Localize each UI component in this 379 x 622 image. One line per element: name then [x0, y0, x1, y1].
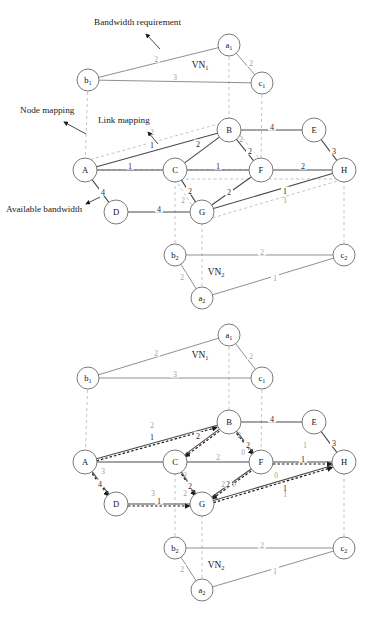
panel-top-vn2-weight-a2-c2: 1 — [273, 274, 277, 283]
panel-top-vn2-title: VN2 — [208, 267, 225, 278]
node-label-F: F — [259, 165, 264, 175]
panel-top-substrate-weight-G-H: 1 — [283, 187, 287, 196]
panel-top-vn1-node-c1[interactable]: c1 — [251, 72, 273, 94]
node-label-G: G — [199, 499, 205, 509]
bandwidth-requirement-leader-arrow — [146, 34, 160, 49]
panel-bottom-substrate-node-G[interactable]: G — [190, 492, 214, 516]
panel-bottom-vn2-node-a2[interactable]: a2 — [191, 579, 213, 601]
panel-top-substrate-node-C[interactable]: C — [163, 158, 187, 182]
panel-top-substrate-weight-F-G: 2 — [227, 188, 231, 197]
lm-a2-c2-weight: 1 — [283, 196, 287, 205]
panel-bottom-vn1-node-a1[interactable]: a1 — [218, 324, 240, 346]
panel-bottom-vn2-title-sub: 2 — [221, 564, 224, 571]
panel-bottom-substrate-weight-F-H: 1 — [301, 455, 305, 464]
panel-top-substrate-node-E[interactable]: E — [302, 118, 326, 142]
panel-top-vn1-node-b1[interactable]: b1 — [77, 69, 99, 91]
res-DG: 3 — [151, 489, 155, 498]
panel-bottom-substrate-weight-A-D: 4 — [98, 480, 102, 489]
res-BF2: 2 — [237, 431, 241, 440]
res-FG: 0 — [232, 480, 236, 489]
panel-bottom-substrate-weight-B-F: 2 — [246, 441, 250, 450]
panel-top-vn2-weight-b2-c2: 2 — [260, 248, 264, 257]
node-label-B: B — [226, 125, 232, 135]
panel-bottom-vn1-weight-b1-a1: 2 — [154, 349, 158, 358]
node-sub-c2: 2 — [344, 547, 347, 554]
res-GH2: 1 — [283, 490, 287, 499]
panel-bottom-substrate: 14224213211ABCDEFGH — [73, 410, 356, 516]
panel-top-substrate: 1142241243221ABCDEFGH — [73, 118, 356, 224]
panel-bottom-substrate-node-A[interactable]: A — [73, 450, 97, 474]
res-CG: 2 — [183, 489, 187, 498]
panel-bottom-vn1-title-sub: 1 — [205, 354, 208, 361]
node-label-B: B — [226, 417, 232, 427]
node-sub-b2: 2 — [176, 254, 179, 261]
panel-bottom-vn1: 223a1b1c1VN1 — [77, 324, 273, 389]
panel-top-vn2-node-c2[interactable]: c2 — [333, 244, 355, 266]
node-label-D: D — [113, 207, 119, 217]
node-sub-b1: 1 — [89, 377, 92, 384]
panel-top-substrate-node-H[interactable]: H — [332, 158, 356, 182]
node-mapping-label: Node mapping — [20, 105, 75, 115]
panel-top-nodemap-b1-A — [85, 80, 88, 170]
panel-bottom-vn2-node-b2[interactable]: b2 — [164, 537, 186, 559]
network-diagram: 22211142241243221ABCDEFGH223a1b1c1VN1221… — [0, 0, 379, 622]
res-FG2: 2 — [221, 480, 225, 489]
panel-bottom-vn2-weight-b2-c2: 2 — [260, 541, 264, 550]
lm-b2-a2-weight: 2 — [181, 196, 185, 205]
available-bandwidth-leader-arrow — [86, 197, 100, 204]
node-sub-a2: 2 — [202, 297, 205, 304]
panel-top-substrate-weight-D-G: 4 — [157, 205, 161, 214]
panel-bottom-substrate-weight-A-B: 1 — [150, 433, 154, 442]
panel-bottom-vn1-title: VN1 — [192, 350, 209, 361]
node-label-C: C — [172, 457, 178, 467]
panel-bottom-vn2-node-c2[interactable]: c2 — [333, 537, 355, 559]
node-label-E: E — [311, 417, 316, 427]
panel-bottom-substrate-node-F[interactable]: F — [249, 450, 273, 474]
res-BF: 0 — [241, 448, 245, 457]
panel-bottom-vn2: 221b2a2c2VN2 — [164, 537, 355, 601]
panel-bottom-vn1-weight-a1-c1: 2 — [249, 352, 253, 361]
panel-top-substrate-node-D[interactable]: D — [104, 200, 128, 224]
panel-bottom-substrate-weight-B-C: 2 — [196, 432, 200, 441]
panel-top-vn2-node-a2[interactable]: a2 — [191, 287, 213, 309]
res-GH: 0 — [274, 471, 278, 480]
node-sub-a1: 1 — [229, 334, 232, 341]
panel-bottom-substrate-node-E[interactable]: E — [302, 410, 326, 434]
panel-top-substrate-node-F[interactable]: F — [249, 158, 273, 182]
panel-bottom-substrate-weight-E-H: 3 — [332, 439, 336, 448]
res-AD: 3 — [101, 467, 105, 476]
panel-top-substrate-weight-A-C: 1 — [128, 162, 132, 171]
panel-bottom-vn2-weight-a2-c2: 1 — [273, 567, 277, 576]
panel-top-vn2-node-b2[interactable]: b2 — [164, 244, 186, 266]
node-label-H: H — [341, 457, 347, 467]
figure-canvas: 22211142241243221ABCDEFGH223a1b1c1VN1221… — [0, 0, 379, 622]
res-CF: 2 — [216, 453, 220, 462]
panel-top-vn2-weight-b2-a2: 2 — [180, 273, 184, 282]
bandwidth-requirement-label: Bandwidth requirement — [94, 17, 181, 27]
lm-b1-a1 — [85, 121, 229, 161]
panel-bottom-substrate-weight-B-E: 4 — [270, 415, 274, 424]
panel-bottom-substrate-node-D[interactable]: D — [104, 492, 128, 516]
panel-top-vn2: 221b2a2c2VN2 — [164, 244, 355, 309]
panel-top-substrate-node-G[interactable]: G — [190, 200, 214, 224]
lm-a2-c2 — [202, 179, 344, 221]
node-sub-b1: 1 — [89, 79, 92, 86]
panel-top-vn1-node-a1[interactable]: a1 — [218, 34, 240, 56]
res-AB: 2 — [150, 421, 154, 430]
panel-bottom-residual-labels: 2332202021012 — [101, 421, 307, 499]
panel-top: 22211142241243221ABCDEFGH223a1b1c1VN1221… — [73, 34, 356, 309]
node-sub-b2: 2 — [176, 547, 179, 554]
node-label-A: A — [82, 165, 89, 175]
panel-bottom-vn2-weight-b2-a2: 2 — [180, 565, 184, 574]
panel-bottom-substrate-link-A-B — [97, 425, 218, 459]
node-sub-c2: 2 — [344, 254, 347, 261]
node-label-D: D — [113, 499, 119, 509]
node-label-E: E — [311, 125, 316, 135]
panel-top-substrate-node-A[interactable]: A — [73, 158, 97, 182]
panel-top-substrate-node-B[interactable]: B — [217, 118, 241, 142]
panel-bottom-vn1-node-c1[interactable]: c1 — [251, 367, 273, 389]
panel-top-nodemap-c1-F — [261, 83, 262, 170]
panel-bottom-substrate-node-H[interactable]: H — [332, 450, 356, 474]
panel-top-vn1-weight-a1-c1: 2 — [249, 59, 253, 68]
panel-bottom-vn1-node-b1[interactable]: b1 — [77, 367, 99, 389]
